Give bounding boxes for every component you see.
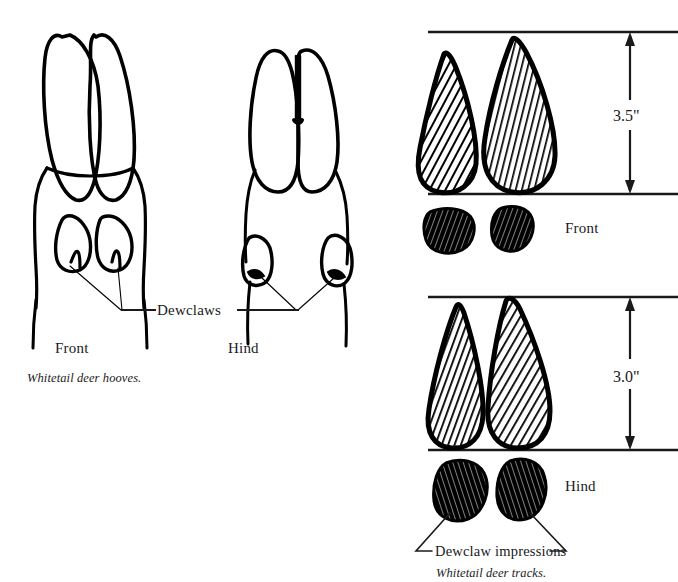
track-front-label: Front	[565, 220, 599, 237]
dewclaw-impressions-label: Dewclaw impressions	[435, 543, 566, 560]
illustration-page: Dewclaws Front Hind Whitetail deer hoove…	[0, 0, 678, 582]
hoof-front-label: Front	[55, 340, 89, 357]
hooves-caption: Whitetail deer hooves.	[27, 371, 141, 386]
hind-track-drawing	[384, 285, 678, 565]
tracks-caption: Whitetail deer tracks.	[436, 566, 546, 581]
track-hind-label: Hind	[565, 478, 596, 495]
dewclaws-label: Dewclaws	[157, 302, 221, 319]
hoof-hind-label: Hind	[228, 340, 259, 357]
front-measurement-label: 3.5"	[613, 107, 640, 125]
hind-measurement-label: 3.0"	[613, 368, 640, 386]
front-track-drawing	[384, 20, 678, 270]
